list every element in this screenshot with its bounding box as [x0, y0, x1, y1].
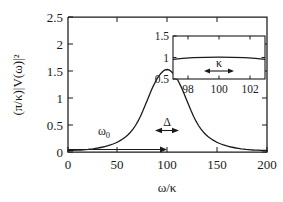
figure-container: 0 0.5 1 1.5 2 2.5 0 50 100 150 200 ω/κ (… [0, 0, 283, 202]
delta-arrow-head-right [172, 128, 179, 133]
delta-arrow-head-left [155, 128, 162, 133]
inset-x-ticklabel-98: 98 [182, 83, 194, 95]
y-tick-labels: 0 0.5 1 1.5 2 2.5 [47, 10, 63, 160]
x-ticklabel-0: 0 [65, 157, 72, 172]
inset-axes: κ 1.5 1 0.5 98 100 102 [155, 30, 265, 95]
delta-label: Δ [163, 115, 171, 129]
y-ticklabel-0_5: 0.5 [47, 118, 63, 133]
inset-y-ticklabel-0_5: 0.5 [155, 73, 170, 85]
x-ticklabel-200: 200 [257, 157, 277, 172]
inset-x-ticklabel-102: 102 [241, 83, 259, 95]
kappa-label: κ [216, 56, 222, 70]
x-ticklabel-100: 100 [157, 157, 177, 172]
x-tick-labels: 0 50 100 150 200 [65, 157, 277, 172]
x-axis-title: ω/κ [158, 180, 177, 195]
spectral-density-chart: 0 0.5 1 1.5 2 2.5 0 50 100 150 200 ω/κ (… [0, 0, 283, 202]
delta-width-annotation: Δ [155, 115, 179, 133]
y-ticklabel-2_5: 2.5 [47, 10, 63, 25]
y-ticklabel-0: 0 [57, 145, 64, 160]
x-ticklabel-150: 150 [207, 157, 227, 172]
y-axis-title: (π/κ)|V(ω)|² [10, 54, 25, 115]
x-ticklabel-50: 50 [111, 157, 124, 172]
inset-y-ticklabel-1_5: 1.5 [155, 30, 170, 42]
inset-y-ticklabel-1: 1 [163, 52, 169, 64]
y-ticklabel-1_5: 1.5 [47, 64, 63, 79]
y-ticklabel-2: 2 [57, 37, 64, 52]
omega-zero-label: ω0 [98, 124, 110, 140]
inset-x-ticklabel-100: 100 [210, 83, 228, 95]
y-ticklabel-1: 1 [57, 91, 64, 106]
